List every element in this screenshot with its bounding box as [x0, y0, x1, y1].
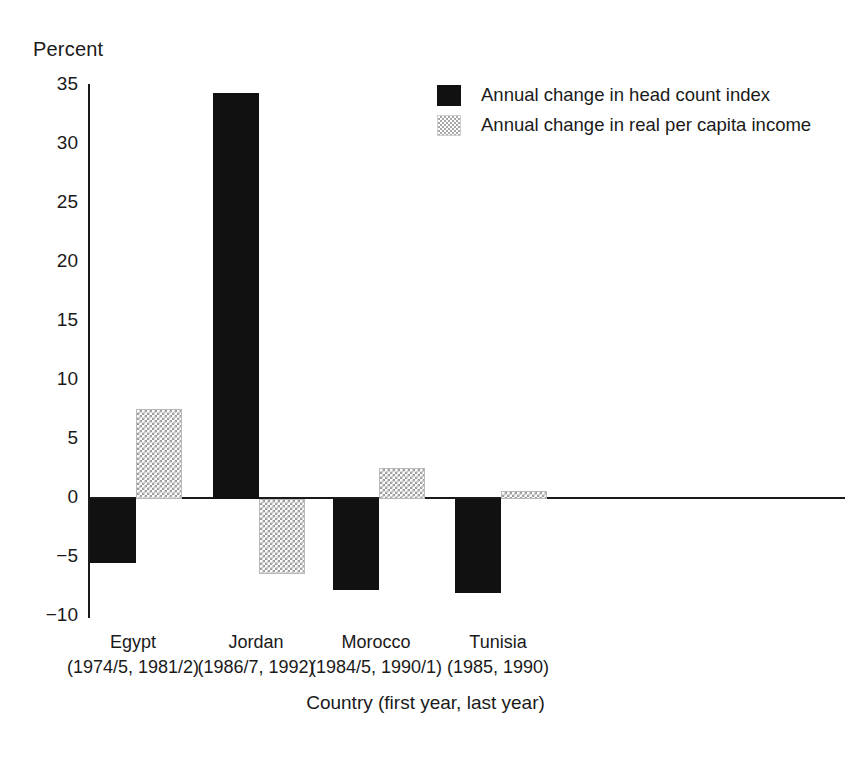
bar-egypt-series1 — [90, 499, 136, 563]
y-tick-35: 35 — [57, 73, 78, 95]
y-tick-5: 5 — [67, 427, 78, 449]
x-group-label-jordan: Jordan (1986/7, 1992) — [197, 630, 314, 680]
bar-chart: Percent Annual change in head count inde… — [0, 0, 851, 758]
x-group-years-tunisia: (1985, 1990) — [447, 655, 549, 680]
bar-morocco-series2 — [379, 468, 425, 499]
bar-jordan-series1 — [213, 93, 259, 499]
y-tick-neg5: −5 — [56, 545, 78, 567]
x-group-name-tunisia: Tunisia — [469, 632, 526, 652]
bar-tunisia-series1 — [455, 499, 501, 593]
y-tick-20: 20 — [57, 250, 78, 272]
x-group-name-jordan: Jordan — [228, 632, 283, 652]
y-tick-25: 25 — [57, 191, 78, 213]
bar-jordan-series2 — [259, 499, 305, 574]
plot-area: 35 30 25 20 15 10 5 0 −5 −10 Egypt (1974… — [88, 84, 848, 618]
y-tick-15: 15 — [57, 309, 78, 331]
x-axis-title: Country (first year, last year) — [0, 692, 851, 714]
x-group-years-morocco: (1984/5, 1990/1) — [310, 655, 442, 680]
bar-egypt-series2 — [136, 409, 182, 499]
y-tick-30: 30 — [57, 132, 78, 154]
x-group-years-jordan: (1986/7, 1992) — [197, 655, 314, 680]
x-group-years-egypt: (1974/5, 1981/2) — [67, 655, 199, 680]
x-group-label-tunisia: Tunisia (1985, 1990) — [447, 630, 549, 680]
bar-morocco-series1 — [333, 499, 379, 589]
y-tick-neg10: −10 — [46, 604, 78, 626]
y-tick-0: 0 — [67, 486, 78, 508]
x-group-label-egypt: Egypt (1974/5, 1981/2) — [67, 630, 199, 680]
y-tick-10: 10 — [57, 368, 78, 390]
x-group-label-morocco: Morocco (1984/5, 1990/1) — [310, 630, 442, 680]
y-axis-title: Percent — [33, 38, 103, 61]
x-group-name-egypt: Egypt — [110, 632, 156, 652]
x-group-name-morocco: Morocco — [341, 632, 410, 652]
bar-tunisia-series2 — [501, 491, 547, 499]
